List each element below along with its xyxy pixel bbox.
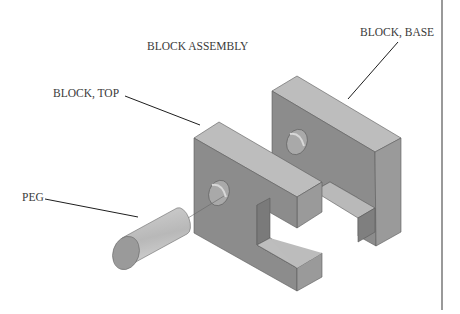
leader-top [125, 96, 200, 125]
callout-peg: PEG [22, 192, 44, 204]
leader-peg [45, 199, 138, 217]
peg [108, 208, 190, 274]
leader-base [348, 42, 398, 99]
callout-block-base: BLOCK, BASE [360, 27, 434, 39]
drawing-title: BLOCK ASSEMBLY [147, 41, 248, 53]
callout-block-top: BLOCK, TOP [53, 88, 119, 100]
